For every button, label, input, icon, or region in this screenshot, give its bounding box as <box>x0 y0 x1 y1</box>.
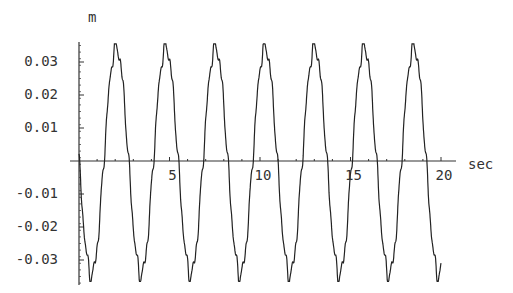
axis-ticks <box>79 46 441 284</box>
data-line <box>79 44 441 282</box>
y-tick-label: -0.01 <box>0 185 58 201</box>
y-tick-label: 0.03 <box>0 53 58 69</box>
y-tick-label: 0.01 <box>0 119 58 135</box>
x-tick-label: 5 <box>158 167 188 183</box>
x-tick-label: 10 <box>248 167 278 183</box>
y-tick-label: -0.02 <box>0 218 58 234</box>
x-axis-label: sec <box>468 156 493 172</box>
x-tick-label: 15 <box>339 167 369 183</box>
line-chart <box>0 0 513 293</box>
y-tick-label: -0.03 <box>0 251 58 267</box>
y-tick-label: 0.02 <box>0 86 58 102</box>
x-tick-label: 20 <box>429 167 459 183</box>
y-axis-label: m <box>88 9 96 25</box>
